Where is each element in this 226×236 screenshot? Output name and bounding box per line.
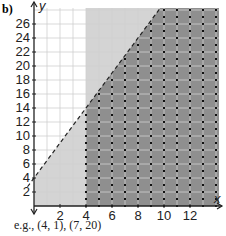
integer-point xyxy=(85,198,87,200)
integer-point xyxy=(111,107,113,109)
integer-point xyxy=(98,93,100,95)
integer-point xyxy=(202,100,204,102)
integer-point xyxy=(215,163,217,165)
integer-point xyxy=(98,128,100,130)
integer-point xyxy=(202,93,204,95)
integer-point xyxy=(111,142,113,144)
integer-point xyxy=(202,121,204,123)
integer-point xyxy=(124,58,126,60)
integer-point xyxy=(189,30,191,32)
integer-point xyxy=(111,149,113,151)
integer-point xyxy=(111,128,113,130)
integer-point xyxy=(202,44,204,46)
integer-point xyxy=(215,128,217,130)
integer-point xyxy=(163,170,165,172)
y-tick-label: 2 xyxy=(23,184,30,199)
integer-point xyxy=(137,177,139,179)
integer-point xyxy=(150,23,152,25)
integer-point xyxy=(163,65,165,67)
integer-point xyxy=(98,163,100,165)
integer-point xyxy=(124,65,126,67)
integer-point xyxy=(150,191,152,193)
integer-point xyxy=(124,128,126,130)
integer-point xyxy=(150,100,152,102)
integer-point xyxy=(189,9,191,11)
integer-point xyxy=(137,65,139,67)
integer-point xyxy=(189,121,191,123)
integer-point xyxy=(215,58,217,60)
integer-point xyxy=(202,65,204,67)
integer-point xyxy=(202,58,204,60)
integer-point xyxy=(215,170,217,172)
integer-point xyxy=(189,37,191,39)
integer-point xyxy=(111,86,113,88)
integer-point xyxy=(150,65,152,67)
integer-point xyxy=(163,114,165,116)
integer-point xyxy=(215,114,217,116)
integer-point xyxy=(137,170,139,172)
integer-point xyxy=(202,135,204,137)
integer-point xyxy=(215,9,217,11)
integer-point xyxy=(163,86,165,88)
integer-point xyxy=(124,107,126,109)
integer-point xyxy=(111,135,113,137)
integer-point xyxy=(176,163,178,165)
integer-point xyxy=(202,114,204,116)
integer-point xyxy=(111,100,113,102)
integer-point xyxy=(189,72,191,74)
integer-point xyxy=(98,177,100,179)
integer-point xyxy=(163,72,165,74)
integer-point xyxy=(137,184,139,186)
x-tick-label: 8 xyxy=(134,208,141,223)
integer-point xyxy=(163,128,165,130)
integer-point xyxy=(215,72,217,74)
y-tick-label: 26 xyxy=(16,16,30,31)
integer-point xyxy=(176,170,178,172)
integer-point xyxy=(215,65,217,67)
integer-point xyxy=(98,198,100,200)
integer-point xyxy=(124,170,126,172)
integer-point xyxy=(137,198,139,200)
integer-point xyxy=(150,51,152,53)
integer-point xyxy=(124,163,126,165)
y-tick-label: 14 xyxy=(16,100,30,115)
integer-point xyxy=(163,191,165,193)
integer-point xyxy=(189,191,191,193)
integer-point xyxy=(124,135,126,137)
integer-point xyxy=(98,149,100,151)
integer-point xyxy=(137,149,139,151)
integer-point xyxy=(163,79,165,81)
integer-point xyxy=(124,142,126,144)
integer-point xyxy=(215,156,217,158)
integer-point xyxy=(98,135,100,137)
integer-point xyxy=(111,114,113,116)
integer-point xyxy=(202,86,204,88)
integer-point xyxy=(189,93,191,95)
integer-point xyxy=(111,184,113,186)
integer-point xyxy=(176,72,178,74)
integer-point xyxy=(176,184,178,186)
example-points-caption: e.g., (4, 1), (7, 20) xyxy=(14,218,101,233)
integer-point xyxy=(189,51,191,53)
integer-point xyxy=(150,44,152,46)
integer-point xyxy=(215,79,217,81)
integer-point xyxy=(189,100,191,102)
integer-point xyxy=(176,107,178,109)
integer-point xyxy=(98,107,100,109)
integer-point xyxy=(202,23,204,25)
integer-point xyxy=(137,44,139,46)
integer-point xyxy=(98,184,100,186)
integer-point xyxy=(189,79,191,81)
y-tick-label: 4 xyxy=(23,170,30,185)
integer-point xyxy=(98,114,100,116)
integer-point xyxy=(124,93,126,95)
integer-point xyxy=(215,51,217,53)
integer-point xyxy=(150,184,152,186)
integer-point xyxy=(124,198,126,200)
integer-point xyxy=(150,156,152,158)
integer-point xyxy=(215,142,217,144)
integer-point xyxy=(176,142,178,144)
integer-point xyxy=(202,16,204,18)
integer-point xyxy=(150,177,152,179)
inequality-graph: yx246810122468101214161820222426 xyxy=(0,0,226,236)
